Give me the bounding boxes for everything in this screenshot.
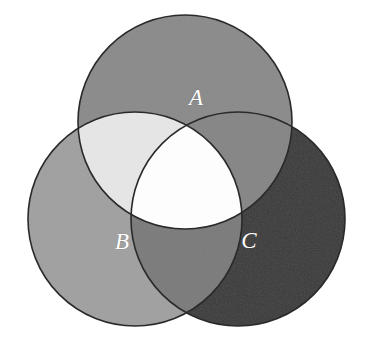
set-label-a: A — [187, 85, 204, 110]
set-label-c: C — [241, 228, 257, 253]
set-label-b: B — [115, 229, 129, 254]
venn-diagram-svg: A B C — [0, 0, 369, 350]
venn-diagram-canvas: A B C — [0, 0, 369, 350]
